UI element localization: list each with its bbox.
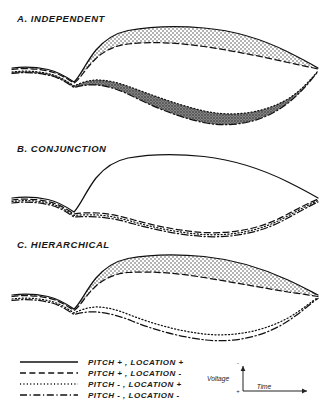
time-axis-label: Time [257, 383, 272, 390]
legend-label-0: PITCH + , LOCATION + [88, 358, 184, 367]
panel-title-independent: A. INDEPENDENT [16, 13, 106, 24]
legend-label-3: PITCH - , LOCATION - [88, 391, 180, 400]
figure-root: A. INDEPENDENT B. CONJUNCTI [0, 0, 323, 403]
legend-label-2: PITCH - , LOCATION + [88, 380, 182, 389]
figure-background [0, 0, 323, 403]
erp-models-figure: A. INDEPENDENT B. CONJUNCTI [0, 0, 323, 403]
voltage-positive-sign: + [236, 388, 240, 394]
voltage-negative-sign: - [237, 360, 239, 366]
panel-title-hierarchical: C. HIERARCHICAL [17, 239, 110, 250]
legend-label-1: PITCH + , LOCATION - [88, 369, 182, 378]
panel-title-conjunction: B. CONJUNCTION [17, 143, 107, 154]
voltage-axis-label: Voltage [207, 375, 229, 383]
